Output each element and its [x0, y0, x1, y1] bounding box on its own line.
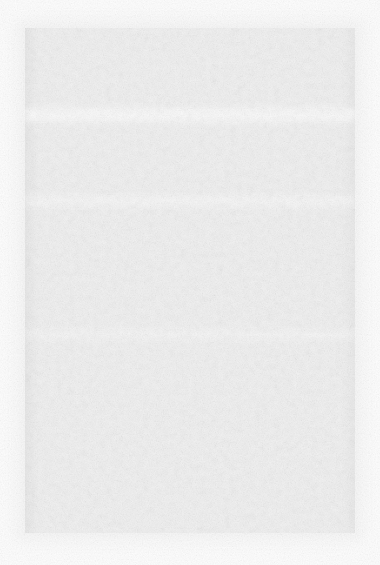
- left-gutter-shading: [25, 28, 39, 533]
- fold-band-lower: [25, 330, 355, 339]
- scanned-document-page: [0, 0, 380, 565]
- fold-band-middle: [25, 196, 355, 206]
- fold-band-upper: [25, 108, 355, 122]
- right-gutter-shading: [341, 28, 355, 533]
- scanned-content-block: [25, 28, 355, 533]
